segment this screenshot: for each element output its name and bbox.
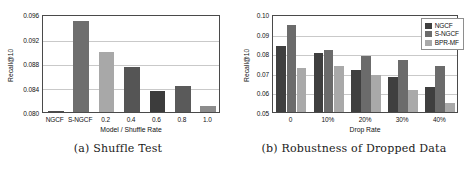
x-axis-tick-label: S-NGCF	[68, 116, 92, 123]
bars-layer	[43, 16, 219, 112]
bar	[48, 111, 64, 113]
x-axis-tick-label: 0.2	[101, 116, 110, 123]
x-axis-tick-label: 40%	[433, 116, 446, 123]
bar	[287, 25, 297, 112]
x-axis-tick-label: NGCF	[46, 116, 64, 123]
legend-item: NGCF	[425, 22, 459, 30]
bar	[408, 90, 418, 112]
subfigure-a: 0.0800.0840.0880.0920.096NGCFS-NGCF0.20.…	[0, 0, 236, 177]
x-axis-tick-label: 0	[289, 116, 293, 123]
x-axis-tick-label: 0.4	[127, 116, 136, 123]
x-axis-label: Model / Shuffle Rate	[42, 126, 220, 133]
legend-label: BPR-MF	[435, 39, 459, 47]
plot-wrap-a: 0.0800.0840.0880.0920.096NGCFS-NGCF0.20.…	[0, 0, 236, 140]
bar	[99, 52, 115, 112]
bar	[361, 56, 371, 112]
subfigure-b-caption: (b) Robustness of Dropped Data	[236, 142, 472, 155]
y-axis-tick-label: 0.080	[0, 110, 39, 117]
chart-robustness-dropped-data: 0.050.060.070.080.090.10010%20%30%40%Dro…	[236, 0, 472, 140]
bar	[276, 46, 286, 112]
bar	[435, 66, 445, 112]
legend-label: S-NGCF	[435, 30, 459, 38]
figure-row: 0.0800.0840.0880.0920.096NGCFS-NGCF0.20.…	[0, 0, 472, 177]
legend-swatch-icon	[425, 31, 432, 37]
bar	[297, 68, 307, 112]
x-axis-label: Drop Rate	[272, 126, 458, 133]
legend-item: BPR-MF	[425, 39, 459, 47]
plot-area-a	[42, 15, 220, 113]
y-axis-tick-label: 0.092	[0, 36, 39, 43]
y-axis-tick-label: 0.10	[236, 12, 269, 19]
legend-label: NGCF	[435, 22, 453, 30]
bar	[425, 87, 435, 112]
bar	[398, 60, 408, 112]
legend-swatch-icon	[425, 23, 432, 29]
subfigure-a-caption: (a) Shuffle Test	[0, 142, 236, 155]
x-axis-tick-label: 0.6	[152, 116, 161, 123]
bar	[351, 70, 361, 112]
bar	[124, 67, 140, 112]
y-axis-label: Recall@10	[7, 49, 14, 82]
chart-shuffle-test: 0.0800.0840.0880.0920.096NGCFS-NGCF0.20.…	[0, 0, 236, 140]
y-axis-tick-label: 0.096	[0, 12, 39, 19]
y-axis-tick-label: 0.08	[236, 51, 269, 58]
legend-swatch-icon	[425, 40, 432, 46]
x-axis-tick-label: 0.8	[177, 116, 186, 123]
bar	[388, 77, 398, 112]
bar	[200, 106, 216, 112]
x-axis-tick-label: 1.0	[203, 116, 212, 123]
y-axis-tick-label: 0.09	[236, 31, 269, 38]
y-axis-tick-label: 0.07	[236, 70, 269, 77]
bar	[334, 66, 344, 112]
x-axis-tick-label: 30%	[396, 116, 409, 123]
y-axis-tick-label: 0.088	[0, 61, 39, 68]
subfigure-b: 0.050.060.070.080.090.10010%20%30%40%Dro…	[236, 0, 472, 177]
y-axis-label: Recall@10	[243, 49, 250, 82]
bar	[150, 91, 166, 112]
y-axis-tick-label: 0.06	[236, 90, 269, 97]
bar	[324, 50, 334, 112]
bar	[371, 75, 381, 112]
x-axis-tick-label: 10%	[321, 116, 334, 123]
plot-wrap-b: 0.050.060.070.080.090.10010%20%30%40%Dro…	[236, 0, 472, 140]
x-axis-tick-label: 20%	[359, 116, 372, 123]
bar	[175, 86, 191, 112]
bar	[314, 53, 324, 112]
bar	[73, 21, 89, 112]
y-axis-tick-label: 0.084	[0, 85, 39, 92]
chart-legend: NGCFS-NGCFBPR-MF	[421, 18, 464, 50]
y-axis-tick-label: 0.05	[236, 110, 269, 117]
bar	[445, 103, 455, 112]
legend-item: S-NGCF	[425, 30, 459, 38]
